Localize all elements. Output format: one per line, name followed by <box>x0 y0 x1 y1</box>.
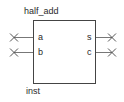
diagram-canvas <box>0 0 124 102</box>
pin-label-b[interactable]: b <box>38 47 43 57</box>
pin-label-c[interactable]: c <box>87 47 92 57</box>
pin-label-s[interactable]: s <box>87 32 92 42</box>
pin-label-a[interactable]: a <box>38 32 43 42</box>
block-title: half_add <box>24 6 59 16</box>
block-diagram: half_add a b s c inst <box>0 0 124 102</box>
instance-name: inst <box>26 86 40 96</box>
